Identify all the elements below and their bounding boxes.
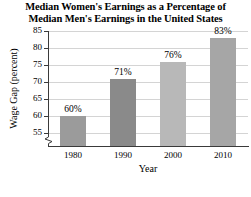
bar-2000	[160, 62, 186, 146]
bar-value-label-1990: 71%	[101, 67, 145, 77]
bar-2010	[210, 38, 236, 146]
bar-chart: Median Women's Earnings as a Percentage …	[0, 0, 251, 197]
y-tick-70	[44, 82, 48, 83]
y-tick-75	[44, 65, 48, 66]
bar-value-label-2010: 83%	[201, 26, 245, 36]
x-tick-label-1990: 1990	[101, 150, 145, 160]
x-axis-tick-labels: 1980199020002010	[48, 150, 248, 164]
x-tick-label-2000: 2000	[151, 150, 195, 160]
y-axis-title: Wage Gap (percent)	[8, 34, 19, 144]
bar-1990	[110, 79, 136, 146]
y-tick-65	[44, 99, 48, 100]
y-tick-80	[44, 48, 48, 49]
x-axis-title: Year	[48, 163, 248, 174]
y-tick-85	[44, 31, 48, 32]
y-tick-60	[44, 116, 48, 117]
bar-value-label-1980: 60%	[51, 104, 95, 114]
bar-value-label-2000: 76%	[151, 50, 195, 60]
x-axis-line	[48, 146, 249, 147]
x-tick-label-1980: 1980	[51, 150, 95, 160]
bars-container: 60%71%76%83%	[48, 31, 248, 146]
x-tick-label-2010: 2010	[201, 150, 245, 160]
y-axis-tick-labels: 55606570758085	[0, 0, 42, 197]
bar-1980	[60, 116, 86, 146]
y-tick-55	[44, 133, 48, 134]
